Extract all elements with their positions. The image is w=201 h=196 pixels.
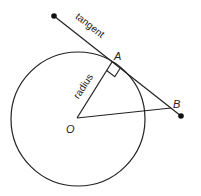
point-B-dot xyxy=(178,113,184,119)
label-O: O xyxy=(66,123,75,135)
tangent-start-point xyxy=(51,13,57,19)
label-B: B xyxy=(173,98,180,110)
diagram-svg: A B O tangent radius xyxy=(0,0,201,196)
tangent-line xyxy=(54,16,181,116)
label-radius: radius xyxy=(71,72,95,101)
tangent-radius-diagram: A B O tangent radius xyxy=(0,0,201,196)
right-angle-marker xyxy=(107,68,120,77)
segment-OB xyxy=(77,108,171,118)
label-A: A xyxy=(113,50,121,62)
